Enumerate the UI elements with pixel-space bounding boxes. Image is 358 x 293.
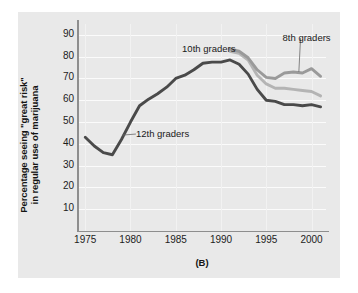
y-axis-tick-label: 10 — [48, 202, 74, 213]
y-axis-tick-label: 40 — [48, 137, 74, 148]
y-axis-tick-label: 20 — [48, 180, 74, 191]
y-axis-tick-label: 80 — [48, 50, 74, 61]
chart-figure: Percentage seeing "great risk" in regula… — [18, 12, 340, 278]
plot-area: 102030405060708090 197519801985199019952… — [78, 24, 326, 231]
y-axis-tick-label: 50 — [48, 115, 74, 126]
figure-caption: (B) — [78, 257, 326, 268]
series-line — [230, 49, 321, 78]
x-axis-tick-label: 1990 — [201, 234, 241, 245]
x-axis-tick-label: 1995 — [246, 234, 286, 245]
series-label: 12th graders — [136, 128, 189, 139]
series-label: 8th graders — [283, 32, 331, 43]
series-line — [230, 51, 321, 96]
x-axis-tick-label: 1985 — [156, 234, 196, 245]
x-axis-line — [77, 231, 329, 232]
x-axis-tick-label: 1980 — [110, 234, 150, 245]
annotation-leader-line — [299, 38, 301, 72]
y-axis-tick-label: 70 — [48, 71, 74, 82]
series-lines — [78, 24, 326, 231]
y-axis-tick-label: 30 — [48, 159, 74, 170]
x-axis-tick-label: 1975 — [65, 234, 105, 245]
y-axis-title-line-1: Percentage seeing "great risk" — [18, 77, 30, 212]
y-axis-title-line-2: in regular use of marijuana — [29, 77, 41, 212]
series-label: 10th graders — [182, 43, 235, 54]
y-axis-tick-label: 90 — [48, 28, 74, 39]
y-axis-tick-label: 60 — [48, 93, 74, 104]
x-axis-tick-label: 2000 — [292, 234, 332, 245]
y-axis-title: Percentage seeing "great risk" in regula… — [14, 12, 44, 278]
